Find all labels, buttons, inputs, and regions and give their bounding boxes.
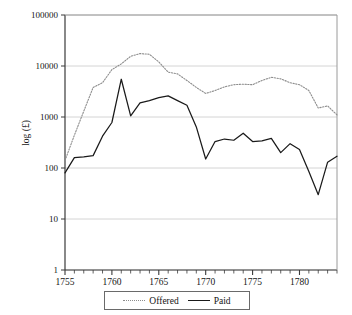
legend-item-offered[interactable]: Offered bbox=[123, 296, 178, 306]
legend-label: Offered bbox=[149, 296, 178, 306]
x-tick-label: 1780 bbox=[277, 277, 321, 287]
legend-swatch-offered bbox=[123, 300, 145, 301]
x-axis-ticks bbox=[65, 270, 337, 275]
y-tick-label: 10 bbox=[0, 215, 58, 224]
legend-label: Paid bbox=[214, 296, 231, 306]
y-axis-title: log (£) bbox=[21, 103, 31, 163]
x-tick-label: 1755 bbox=[43, 277, 87, 287]
legend-swatch-paid bbox=[188, 300, 210, 301]
y-tick-label: 10000 bbox=[0, 62, 58, 71]
x-tick-label: 1765 bbox=[137, 277, 181, 287]
y-tick-label: 100000 bbox=[0, 11, 58, 20]
series-line-paid bbox=[65, 79, 337, 194]
y-tick-label: 1 bbox=[0, 266, 58, 275]
log-scale-line-chart: 110100100010000100000 175517601765177017… bbox=[0, 0, 352, 315]
x-tick-label: 1770 bbox=[184, 277, 228, 287]
x-tick-label: 1760 bbox=[90, 277, 134, 287]
data-series-layer bbox=[65, 54, 337, 195]
chart-legend: OfferedPaid bbox=[104, 291, 250, 310]
y-tick-label: 100 bbox=[0, 164, 58, 173]
legend-item-paid[interactable]: Paid bbox=[188, 296, 231, 306]
x-tick-label: 1775 bbox=[231, 277, 275, 287]
